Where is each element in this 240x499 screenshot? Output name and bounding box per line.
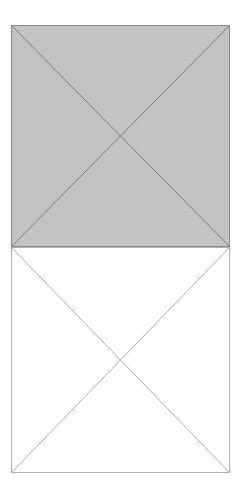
placeholder-graphic (0, 0, 240, 499)
upper-placeholder-box (12, 26, 230, 247)
lower-placeholder-box (12, 248, 230, 473)
